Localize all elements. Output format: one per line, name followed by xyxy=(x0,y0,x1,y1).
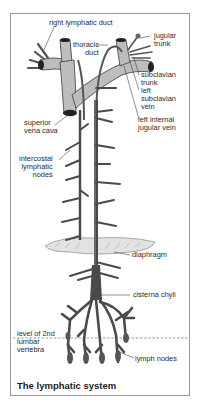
label-intercostal-lymphatic-nodes: intercostal lymphatic nodes xyxy=(19,155,53,180)
label-level-of-2nd-lumbar-vertebra: level of 2nd lumbar vertebra xyxy=(17,330,55,355)
label-left-internal-jugular-vein: left internal jugular vein xyxy=(138,116,176,132)
label-thoracic-duct: thoracic duct xyxy=(73,41,99,57)
label-jugular-trunk: jugular trunk xyxy=(154,32,176,48)
lumbar-lymphatic-tree xyxy=(62,300,134,362)
figure-caption: The lymphatic system xyxy=(17,380,116,391)
left-trunk-branches xyxy=(128,34,152,59)
label-right-lymphatic-duct: right lymphatic duct xyxy=(49,19,113,27)
label-left-subclavian-vein: left subclavian vein xyxy=(141,87,176,112)
label-diaphragm: diaphragm xyxy=(132,251,167,259)
label-cisterna-chyli: cisterna chyli xyxy=(133,291,176,299)
label-lymph-nodes: lymph nodes xyxy=(135,355,177,363)
label-superior-vena-cava: superior vena cava xyxy=(24,119,58,135)
label-subclavian-trunk: subclavian trunk xyxy=(141,71,176,87)
